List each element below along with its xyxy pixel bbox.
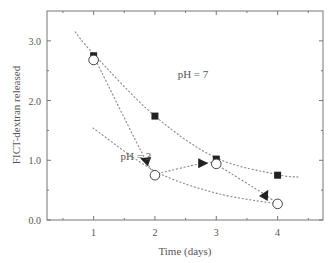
- x-tick-label: 1: [91, 227, 96, 238]
- dotted-curve-pH7-trend: [75, 32, 299, 177]
- circle-marker: [150, 170, 160, 180]
- y-tick-label: 2.0: [29, 96, 42, 107]
- chart: 12340.01.02.03.0 pH = 7pH = 3 Time (days…: [0, 0, 331, 263]
- annotation-label: pH = 7: [178, 68, 209, 80]
- dotted-curve-pH3-trend: [93, 128, 278, 204]
- axis-ticks: [47, 11, 323, 220]
- x-tick-label: 2: [152, 227, 157, 238]
- x-tick-label: 4: [275, 227, 280, 238]
- circle-marker: [89, 55, 99, 65]
- annotations: pH = 7pH = 3: [121, 68, 209, 162]
- x-tick-label: 3: [214, 227, 219, 238]
- y-tick-label: 1.0: [29, 155, 42, 166]
- triangle-marker: [198, 158, 208, 168]
- circle-marker: [273, 199, 283, 209]
- annotation-label: pH = 3: [121, 150, 152, 162]
- axis-tick-labels: 12340.01.02.03.0: [29, 36, 281, 238]
- circle-marker: [211, 159, 221, 169]
- y-axis-label: FICT-dextran released: [10, 65, 22, 164]
- y-tick-label: 3.0: [29, 36, 42, 47]
- plot-frame: [47, 11, 323, 220]
- dotted-trend-curves: [75, 32, 299, 204]
- square-marker: [274, 172, 281, 179]
- square-marker: [151, 113, 158, 120]
- x-axis-label: Time (days): [158, 245, 211, 258]
- y-tick-label: 0.0: [29, 215, 42, 226]
